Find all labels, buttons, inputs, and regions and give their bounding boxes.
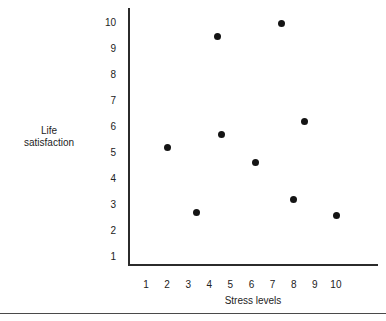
x-tick-label: 1 — [135, 279, 157, 291]
y-tick-label: 10 — [92, 18, 116, 28]
x-tick-label: 9 — [304, 279, 326, 291]
y-tick-10: 10 — [92, 18, 116, 28]
y-axis-title: Lifesatisfaction — [6, 125, 92, 149]
x-tick-label: 10 — [325, 279, 347, 291]
data-point — [252, 159, 259, 166]
x-tick-6: 6 — [241, 279, 263, 291]
x-tick-label: 7 — [262, 279, 284, 291]
page-divider-rule — [0, 313, 386, 314]
y-tick-4: 4 — [92, 174, 116, 184]
y-tick-8: 8 — [92, 70, 116, 80]
data-point — [301, 118, 308, 125]
x-axis-title: Stress levels — [128, 295, 378, 307]
data-point — [218, 131, 225, 138]
y-tick-2: 2 — [92, 226, 116, 236]
data-point — [193, 209, 200, 216]
y-tick-label: 2 — [92, 226, 116, 236]
x-tick-label: 8 — [283, 279, 305, 291]
data-point — [290, 196, 297, 203]
y-tick-label: 1 — [92, 252, 116, 262]
y-tick-label: 9 — [92, 44, 116, 54]
x-tick-8: 8 — [283, 279, 305, 291]
y-axis-line — [128, 8, 130, 266]
y-tick-label: 8 — [92, 70, 116, 80]
y-tick-7: 7 — [92, 96, 116, 106]
x-tick-5: 5 — [219, 279, 241, 291]
y-tick-label: 6 — [92, 122, 116, 132]
data-point — [164, 144, 171, 151]
data-point — [214, 33, 221, 40]
x-tick-label: 5 — [219, 279, 241, 291]
x-tick-1: 1 — [135, 279, 157, 291]
x-tick-4: 4 — [198, 279, 220, 291]
scatter-plot-figure: 10987654321 12345678910 Lifesatisfaction… — [0, 0, 386, 321]
x-tick-label: 3 — [177, 279, 199, 291]
y-axis-title-line-1: Life — [6, 125, 92, 137]
x-tick-2: 2 — [156, 279, 178, 291]
x-axis-line — [128, 264, 378, 266]
data-point — [278, 20, 285, 27]
y-tick-5: 5 — [92, 148, 116, 158]
x-tick-10: 10 — [325, 279, 347, 291]
y-tick-label: 4 — [92, 174, 116, 184]
y-tick-1: 1 — [92, 252, 116, 262]
x-tick-label: 6 — [241, 279, 263, 291]
y-axis-title-line-2: satisfaction — [6, 137, 92, 149]
y-tick-label: 7 — [92, 96, 116, 106]
x-tick-label: 2 — [156, 279, 178, 291]
y-tick-label: 3 — [92, 200, 116, 210]
data-point — [333, 212, 340, 219]
y-tick-3: 3 — [92, 200, 116, 210]
y-tick-6: 6 — [92, 122, 116, 132]
x-tick-9: 9 — [304, 279, 326, 291]
x-tick-7: 7 — [262, 279, 284, 291]
x-tick-3: 3 — [177, 279, 199, 291]
y-tick-9: 9 — [92, 44, 116, 54]
y-tick-label: 5 — [92, 148, 116, 158]
x-tick-label: 4 — [198, 279, 220, 291]
